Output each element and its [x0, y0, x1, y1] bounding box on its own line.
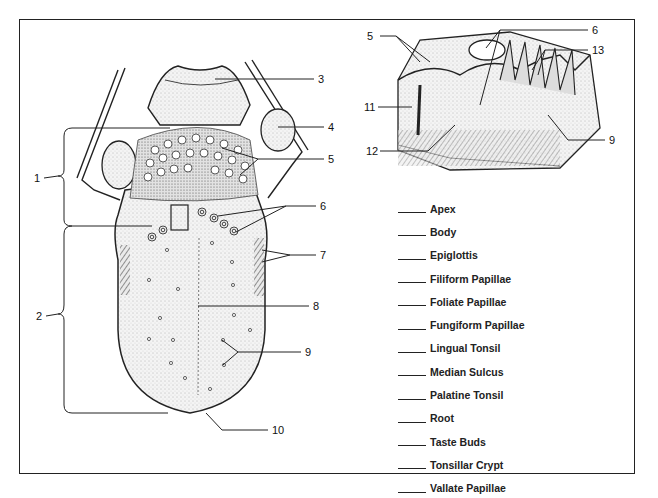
- term-item: Palatine Tonsil: [398, 383, 525, 406]
- answer-blank[interactable]: [398, 321, 426, 330]
- answer-blank[interactable]: [398, 274, 426, 283]
- callout-1: 1: [34, 172, 40, 184]
- term-item: Lingual Tonsil: [398, 337, 525, 360]
- term-item: Body: [398, 220, 525, 243]
- inset-callout-6: 6: [592, 24, 598, 36]
- callout-6: 6: [320, 200, 326, 212]
- answer-blank[interactable]: [398, 227, 426, 236]
- term-item: Fungiform Papillae: [398, 313, 525, 336]
- foliate-papillae-right: [254, 238, 264, 296]
- inset-callout-13: 13: [592, 44, 604, 56]
- tongue-body: [115, 185, 267, 413]
- papillae-cross-section-inset: [398, 32, 600, 170]
- inset-callout-5: 5: [367, 30, 373, 42]
- callout-5: 5: [328, 153, 334, 165]
- term-item: Vallate Papillae: [398, 477, 525, 498]
- callout-7: 7: [320, 249, 326, 261]
- term-item: Epiglottis: [398, 244, 525, 267]
- term-item: Median Sulcus: [398, 360, 525, 383]
- term-item: Tonsillar Crypt: [398, 453, 525, 476]
- term-item: Filiform Papillae: [398, 267, 525, 290]
- answer-blank[interactable]: [398, 391, 426, 400]
- foliate-papillae-left: [120, 245, 130, 295]
- term-item: Foliate Papillae: [398, 290, 525, 313]
- term-item: Taste Buds: [398, 430, 525, 453]
- callout-8: 8: [313, 300, 319, 312]
- inset-callout-11: 11: [364, 101, 375, 113]
- callout-10: 10: [272, 424, 284, 436]
- callout-9: 9: [305, 346, 311, 358]
- term-list: Apex Body Epiglottis Filiform Papillae F…: [398, 197, 525, 498]
- answer-blank[interactable]: [398, 367, 426, 376]
- epiglottis: [148, 66, 250, 125]
- inset-callout-9: 9: [609, 134, 615, 146]
- answer-blank[interactable]: [398, 484, 426, 493]
- answer-blank[interactable]: [398, 437, 426, 446]
- callout-2: 2: [36, 310, 42, 322]
- answer-blank[interactable]: [398, 297, 426, 306]
- callout-4: 4: [328, 121, 334, 133]
- palatine-tonsil-left: [102, 141, 136, 189]
- answer-blank[interactable]: [398, 414, 426, 423]
- callout-3: 3: [318, 73, 324, 85]
- palatine-tonsil-right: [261, 109, 295, 151]
- answer-blank[interactable]: [398, 344, 426, 353]
- answer-blank[interactable]: [398, 204, 426, 213]
- term-item: Apex: [398, 197, 525, 220]
- answer-blank[interactable]: [398, 460, 426, 469]
- inset-callout-12: 12: [366, 145, 378, 157]
- answer-blank[interactable]: [398, 251, 426, 260]
- term-item: Root: [398, 407, 525, 430]
